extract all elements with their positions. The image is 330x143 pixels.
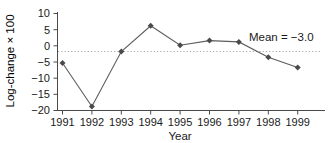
x-tick-label-4: 1995 — [168, 116, 192, 128]
x-tick-label-8: 1999 — [285, 116, 309, 128]
mean-annotation-label: Mean = −3.0 — [249, 31, 314, 43]
y-tick-label-5: −15 — [31, 88, 50, 100]
y-tick-label-4: −10 — [31, 72, 50, 84]
y-tick-label-3: −5 — [37, 56, 50, 68]
y-tick-label-0: 10 — [38, 7, 50, 19]
x-tick-label-1: 1992 — [80, 116, 104, 128]
y-tick-label-1: 5 — [44, 24, 50, 36]
x-tick-label-6: 1997 — [227, 116, 251, 128]
x-axis-tick-labels: 1991 1992 1993 1994 1995 1996 1997 1998 … — [50, 116, 310, 128]
x-tick-label-5: 1996 — [197, 116, 221, 128]
line-chart: 10 5 0 −5 −10 −15 −20 1991 1992 1993 199… — [0, 0, 330, 143]
y-axis-title: Log-change × 100 — [4, 14, 16, 107]
x-tick-label-2: 1993 — [109, 116, 133, 128]
x-tick-label-3: 1994 — [138, 116, 162, 128]
x-tick-label-7: 1998 — [256, 116, 280, 128]
y-tick-label-6: −20 — [31, 104, 50, 116]
x-axis-title: Year — [168, 130, 191, 142]
y-tick-label-2: 0 — [44, 40, 50, 52]
chart-figure: 10 5 0 −5 −10 −15 −20 1991 1992 1993 199… — [0, 0, 330, 143]
x-tick-label-0: 1991 — [50, 116, 74, 128]
